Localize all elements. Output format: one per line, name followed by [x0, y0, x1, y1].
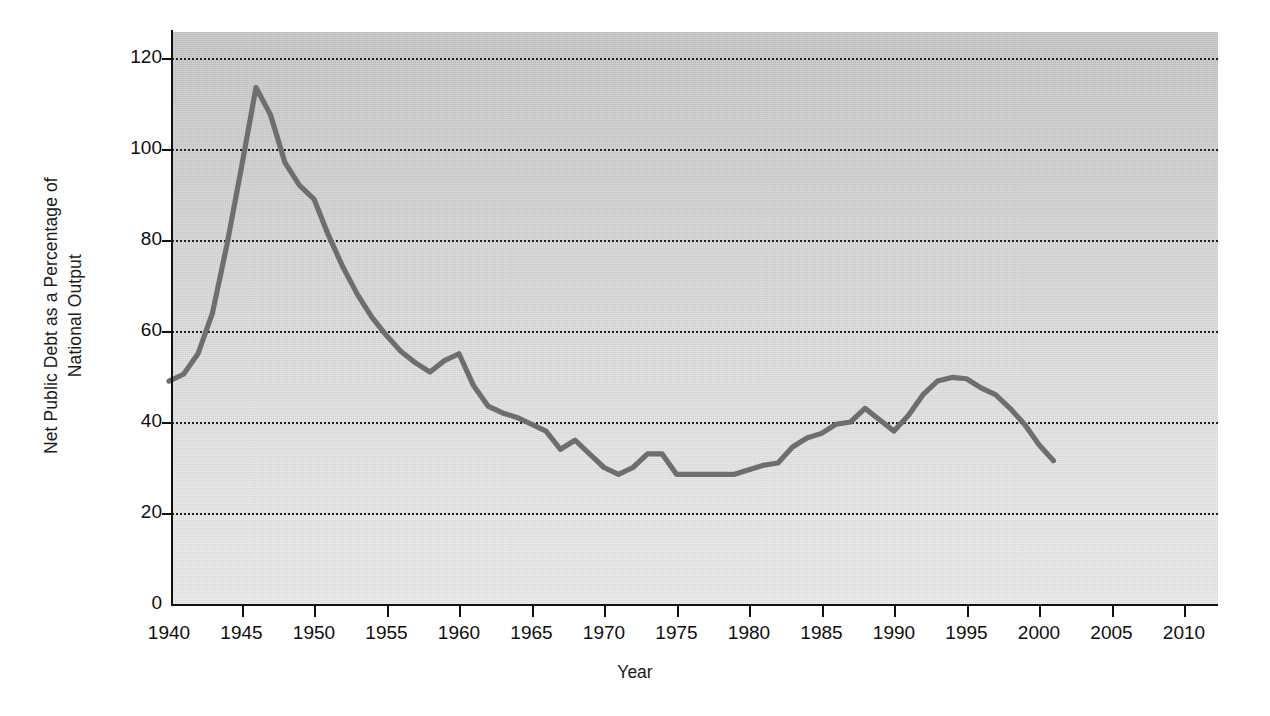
x-tick-label-2005: 2005	[1072, 622, 1152, 644]
y-tick-label-0: 0	[62, 592, 162, 614]
x-tick-1950	[314, 605, 316, 617]
x-tick-label-1995: 1995	[927, 622, 1007, 644]
x-tick-1970	[604, 605, 606, 617]
x-tick-2000	[1039, 605, 1041, 617]
y-tick-label-80: 80	[62, 228, 162, 250]
x-tick-label-1945: 1945	[202, 622, 282, 644]
x-tick-1975	[677, 605, 679, 617]
x-tick-1960	[459, 605, 461, 617]
x-tick-1985	[822, 605, 824, 617]
y-axis-title-line-1: Net Public Debt as a Percentage of	[41, 177, 61, 454]
x-tick-label-1955: 1955	[347, 622, 427, 644]
x-tick-2005	[1112, 605, 1114, 617]
plot-area	[172, 32, 1218, 604]
x-tick-label-2000: 2000	[999, 622, 1079, 644]
y-tick-label-100: 100	[62, 137, 162, 159]
x-tick-label-1965: 1965	[492, 622, 572, 644]
y-tick-20	[162, 513, 173, 515]
series-svg	[172, 32, 1218, 604]
x-tick-1965	[532, 605, 534, 617]
x-tick-1980	[749, 605, 751, 617]
x-tick-1945	[242, 605, 244, 617]
y-tick-60	[162, 331, 173, 333]
y-tick-label-20: 20	[62, 501, 162, 523]
x-tick-label-1940: 1940	[129, 622, 209, 644]
y-tick-100	[162, 149, 173, 151]
x-tick-label-1960: 1960	[419, 622, 499, 644]
x-tick-label-1985: 1985	[782, 622, 862, 644]
x-tick-2010	[1184, 605, 1186, 617]
y-axis-title-wrapper: Net Public Debt as a Percentage of Natio…	[0, 0, 120, 620]
x-axis-line	[171, 604, 1218, 606]
x-tick-1995	[967, 605, 969, 617]
y-tick-label-60: 60	[62, 319, 162, 341]
chart-figure: Net Public Debt as a Percentage of Natio…	[0, 0, 1270, 716]
x-tick-label-1980: 1980	[709, 622, 789, 644]
x-tick-1990	[894, 605, 896, 617]
y-tick-label-40: 40	[62, 410, 162, 432]
y-tick-label-120: 120	[62, 46, 162, 68]
y-tick-80	[162, 240, 173, 242]
y-tick-40	[162, 422, 173, 424]
x-tick-label-1950: 1950	[274, 622, 354, 644]
x-tick-label-1975: 1975	[637, 622, 717, 644]
x-tick-1955	[387, 605, 389, 617]
x-tick-label-1990: 1990	[854, 622, 934, 644]
debt-series-line	[169, 88, 1054, 475]
y-axis-line	[171, 30, 173, 606]
x-tick-label-1970: 1970	[564, 622, 644, 644]
x-axis-title: Year	[0, 662, 1270, 683]
y-tick-120	[162, 58, 173, 60]
x-tick-label-2010: 2010	[1144, 622, 1224, 644]
